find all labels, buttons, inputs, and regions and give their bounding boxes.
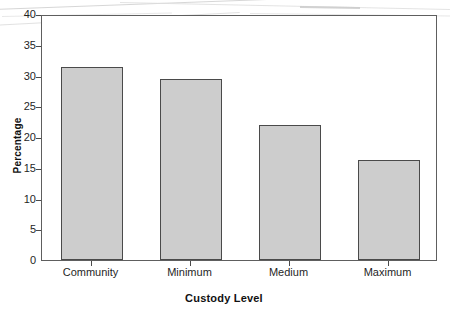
y-axis-tick-label: 10: [6, 194, 36, 205]
y-axis-tick: [36, 46, 41, 47]
bar: [259, 125, 321, 260]
bar: [160, 79, 222, 260]
scan-artifact-line: [120, 2, 450, 10]
y-axis-tick-label: 40: [6, 9, 36, 20]
scan-artifact-line: [0, 0, 294, 10]
scan-artifact-line: [300, 6, 360, 9]
y-axis-tick-label: 30: [6, 71, 36, 82]
plot-frame: [41, 15, 437, 261]
y-axis-tick: [36, 138, 41, 139]
y-axis-tick-label: 35: [6, 40, 36, 51]
y-axis-tick: [36, 169, 41, 170]
y-axis-tick: [36, 15, 41, 16]
y-axis-tick: [36, 200, 41, 201]
y-axis-tick-label: 0: [6, 255, 36, 266]
y-axis-title: Percentage: [12, 101, 23, 191]
x-axis-title: Custody Level: [0, 292, 448, 304]
y-axis-tick-label: 5: [6, 224, 36, 235]
bar: [358, 160, 420, 260]
y-axis-tick: [36, 107, 41, 108]
plot-area: [42, 16, 436, 260]
y-axis-tick: [36, 230, 41, 231]
x-axis-tick-label: Maximum: [328, 267, 448, 278]
bar: [61, 67, 123, 260]
y-axis-tick: [36, 77, 41, 78]
